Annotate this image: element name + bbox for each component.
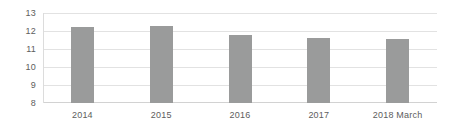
y-axis-tick-label: 9 [2,81,36,90]
bar [150,26,173,103]
y-axis-tick-label: 8 [2,99,36,108]
bar-chart-figure: 13 12 11 10 9 8 20142015201620172018 Mar… [0,0,450,135]
bar [307,38,330,103]
y-axis-tick-label: 10 [2,63,36,72]
y-axis-tick-label: 11 [2,45,36,54]
bar [71,27,94,103]
y-axis: 13 12 11 10 9 8 [0,0,40,135]
x-axis-tick-label: 2018 March [358,110,437,121]
y-axis-tick-label: 13 [2,9,36,18]
bar [229,35,252,103]
x-axis-tick-label: 2016 [201,110,280,121]
x-axis-tick-label: 2015 [122,110,201,121]
x-axis-tick-label: 2017 [279,110,358,121]
plot-area [43,13,437,103]
bar [386,39,409,103]
bars-layer [43,13,437,103]
y-axis-tick-label: 12 [2,27,36,36]
x-axis: 20142015201620172018 March [43,110,437,130]
x-axis-tick-label: 2014 [43,110,122,121]
